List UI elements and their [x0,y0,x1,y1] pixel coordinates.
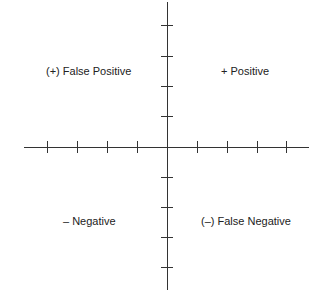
quadrant-label-false-positive: (+) False Positive [46,65,131,77]
quadrant-diagram [0,0,327,298]
quadrant-label-negative: – Negative [63,215,116,227]
quadrant-label-positive: + Positive [221,65,269,77]
axes [24,2,309,290]
quadrant-label-false-negative: (–) False Negative [201,215,291,227]
